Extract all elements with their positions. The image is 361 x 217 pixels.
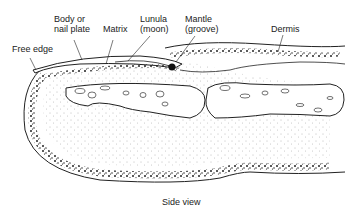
label-body-nail-plate: Body or nail plate	[54, 14, 90, 34]
label-lunula: Lunula (moon)	[140, 14, 169, 34]
free-edge-text: Free edge	[12, 44, 53, 54]
lunula-text-2: (moon)	[140, 24, 169, 34]
body-text-1: Body or	[54, 14, 90, 24]
matrix-text: Matrix	[103, 24, 128, 34]
upper-skin	[165, 43, 345, 48]
diagram-caption: Side view	[162, 197, 201, 207]
caption-text: Side view	[162, 197, 201, 207]
matrix-mark	[169, 64, 176, 71]
label-dermis: Dermis	[271, 24, 300, 34]
dermis-band-upper	[170, 51, 340, 55]
body-text-2: nail plate	[54, 24, 90, 34]
label-free-edge: Free edge	[12, 44, 53, 54]
middle-phalanx	[206, 83, 344, 118]
dermis-text: Dermis	[271, 24, 300, 34]
mantle-text-1: Mantle	[185, 14, 219, 24]
label-mantle: Mantle (groove)	[185, 14, 219, 34]
mantle-text-2: (groove)	[185, 24, 219, 34]
lunula-text-1: Lunula	[140, 14, 169, 24]
label-matrix: Matrix	[103, 24, 128, 34]
